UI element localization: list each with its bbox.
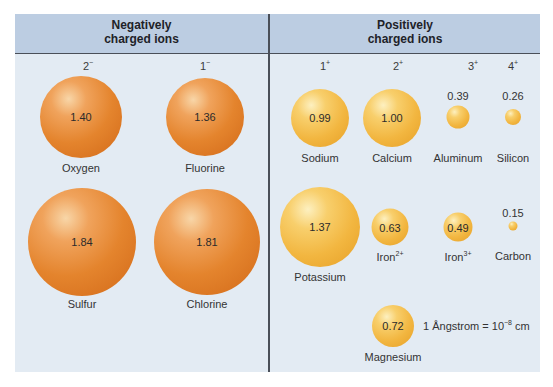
aluminum-label: Aluminum	[434, 152, 483, 164]
aluminum-radius: 0.39	[447, 90, 468, 102]
charge-label-4-plus: 4+	[508, 59, 518, 72]
ion-radius: 0.63	[379, 221, 400, 233]
iron3-ion-sphere: 0.49	[444, 213, 473, 242]
sulfur-label: Sulfur	[68, 298, 97, 310]
sulfur-ion-sphere: 1.84	[28, 188, 136, 296]
ion-radius: 0.72	[382, 320, 403, 332]
silicon-label: Silicon	[497, 152, 529, 164]
charge-label-3-plus: 3+	[468, 59, 478, 72]
sodium-label: Sodium	[301, 152, 338, 164]
fluorine-label: Fluorine	[185, 162, 225, 174]
heading-line: Negatively	[15, 18, 268, 32]
oxygen-ion-sphere: 1.40	[40, 76, 122, 158]
magnesium-label: Magnesium	[365, 351, 422, 363]
magnesium-ion-sphere: 0.72	[372, 305, 414, 347]
silicon-radius: 0.26	[502, 90, 523, 102]
sodium-ion-sphere: 0.99	[291, 89, 349, 147]
heading-line: charged ions	[270, 32, 540, 46]
carbon-label: Carbon	[495, 250, 531, 262]
charge-label-2-plus: 2+	[393, 59, 403, 72]
ion-radius: 1.40	[70, 111, 91, 123]
column-divider	[268, 14, 270, 372]
potassium-ion-sphere: 1.37	[280, 187, 360, 267]
header-bar: Negatively charged ions Positively charg…	[15, 14, 540, 54]
ionic-radii-panel: Negatively charged ions Positively charg…	[15, 14, 540, 372]
calcium-ion-sphere: 1.00	[363, 89, 421, 147]
ion-radius: 1.36	[194, 111, 215, 123]
fluorine-ion-sphere: 1.36	[166, 78, 244, 156]
carbon-ion-sphere	[509, 222, 518, 231]
heading-line: Positively	[270, 18, 540, 32]
oxygen-label: Oxygen	[62, 162, 100, 174]
negative-ions-heading: Negatively charged ions	[15, 18, 268, 46]
carbon-radius: 0.15	[502, 207, 523, 219]
ion-radius: 1.00	[381, 112, 402, 124]
charge-label-2-minus: 2−	[83, 59, 93, 72]
charge-label-1-minus: 1−	[200, 59, 210, 72]
charge-label-1-plus: 1+	[320, 59, 330, 72]
heading-line: charged ions	[15, 32, 268, 46]
chlorine-label: Chlorine	[187, 298, 228, 310]
silicon-ion-sphere	[505, 109, 521, 125]
ion-radius: 0.99	[309, 112, 330, 124]
calcium-label: Calcium	[372, 152, 412, 164]
iron2-label: Iron2+	[377, 250, 404, 263]
ion-radius: 1.37	[309, 221, 330, 233]
angstrom-unit-note: 1 Ångstrom = 10−8 cm	[423, 319, 530, 332]
ion-radius: 1.81	[196, 236, 217, 248]
iron2-ion-sphere: 0.63	[372, 209, 409, 246]
ion-radius: 0.49	[447, 221, 468, 233]
ion-radius: 1.84	[71, 236, 92, 248]
positive-ions-heading: Positively charged ions	[270, 18, 540, 46]
potassium-label: Potassium	[294, 271, 345, 283]
chlorine-ion-sphere: 1.81	[154, 189, 260, 295]
aluminum-ion-sphere	[447, 106, 470, 129]
iron3-label: Iron3+	[445, 250, 472, 263]
